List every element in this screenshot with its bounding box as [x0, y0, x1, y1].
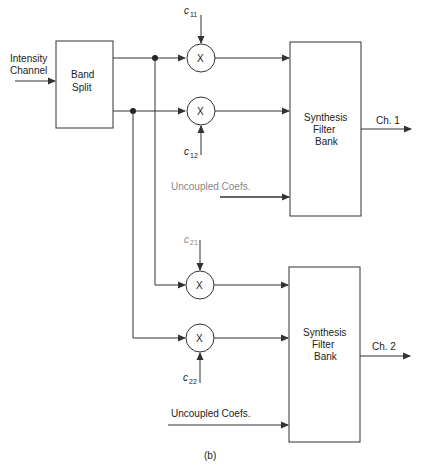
svg-text:Synthesis: Synthesis	[304, 112, 347, 123]
coupling-diagram: Intensity Channel Band Split X c 11 X c …	[0, 0, 424, 473]
band-split-label-1: Band	[71, 69, 94, 80]
svg-text:11: 11	[190, 11, 197, 18]
svg-text:X: X	[197, 53, 204, 64]
multiplier-c22: X c 22	[183, 324, 288, 385]
svg-text:c: c	[184, 146, 189, 157]
ch1-output-label: Ch. 1	[376, 115, 400, 126]
multiplier-c11: X c 11	[184, 5, 289, 72]
svg-text:X: X	[196, 280, 203, 291]
uncoupled-coefs-label-2: Uncoupled Coefs.	[171, 408, 251, 419]
branch-upper-to-ch2	[155, 58, 185, 285]
multiplier-c21: X c 21	[184, 234, 288, 299]
svg-text:Filter: Filter	[312, 339, 335, 350]
figure-caption: (b)	[204, 450, 216, 461]
branch-lower-to-ch2	[133, 111, 185, 338]
svg-text:Synthesis: Synthesis	[303, 327, 346, 338]
svg-text:21: 21	[190, 239, 198, 246]
svg-text:12: 12	[190, 152, 198, 159]
svg-text:Bank: Bank	[315, 136, 339, 147]
band-split-label-2: Split	[72, 82, 92, 93]
svg-text:Bank: Bank	[314, 351, 338, 362]
svg-text:Intensity: Intensity	[10, 53, 47, 64]
synthesis-filter-bank-2: Synthesis Filter Bank	[289, 267, 360, 442]
uncoupled-coefs-label-1: Uncoupled Coefs.	[171, 181, 251, 192]
svg-text:X: X	[196, 333, 203, 344]
svg-text:22: 22	[189, 378, 197, 385]
multiplier-c12: X c 12	[184, 97, 289, 159]
svg-text:Channel: Channel	[10, 65, 47, 76]
svg-text:X: X	[197, 106, 204, 117]
svg-text:c: c	[184, 5, 189, 16]
svg-text:Filter: Filter	[313, 124, 336, 135]
svg-text:c: c	[183, 372, 188, 383]
svg-text:c: c	[184, 234, 189, 245]
synthesis-filter-bank-1: Synthesis Filter Bank	[290, 42, 361, 216]
input-label: Intensity Channel	[10, 53, 47, 76]
ch2-output-label: Ch. 2	[372, 341, 396, 352]
